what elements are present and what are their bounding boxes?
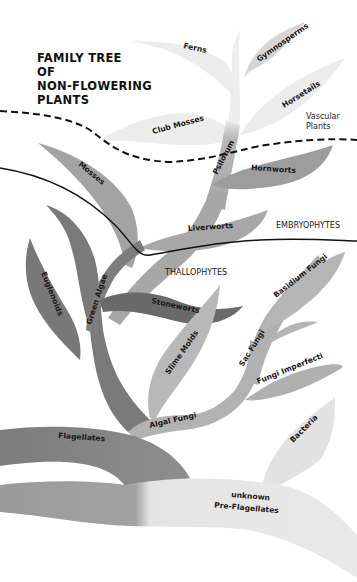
gymnosperms-label: Gymnosperms (255, 21, 311, 64)
vascular-plants-label: VascularPlants (306, 112, 341, 131)
family-tree-illustration: VascularPlants EMBRYOPHYTES THALLOPHYTES… (0, 0, 357, 582)
pre-flagellates-trunk (0, 479, 357, 578)
thallophytes-label: THALLOPHYTES (164, 268, 227, 277)
bacteria-leaf (262, 398, 335, 490)
embryophytes-label: EMBRYOPHYTES (276, 221, 340, 230)
